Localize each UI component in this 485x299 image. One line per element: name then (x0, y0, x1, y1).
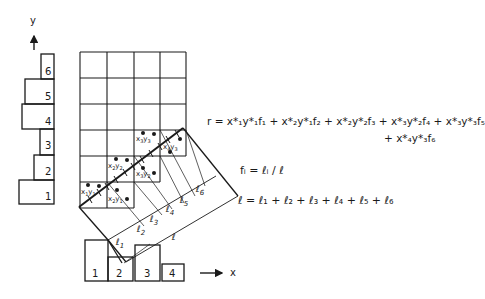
segment-label-l4: ℓ4 (165, 204, 174, 217)
x-bin-label-2: 2 (116, 268, 122, 279)
equation-r-line1: r = x*₁y*₁f₁ + x*₂y*₁f₂ + x*₂y*₂f₃ + x*₃… (207, 115, 485, 127)
total-length-label: ℓ (171, 232, 176, 242)
x-bin-label-3: 3 (144, 268, 150, 279)
equation-fi: fᵢ = ℓᵢ / ℓ (240, 164, 284, 177)
equation-r-line2: + x*₄y*₃f₆ (384, 132, 435, 144)
y-bin-label-2: 2 (45, 166, 51, 177)
cell-label-x3y3: x3y3 (136, 135, 151, 144)
segment-label-l5: ℓ5 (179, 195, 189, 208)
y-bin-label-1: 1 (45, 191, 51, 202)
x-bin-label-4: 4 (169, 268, 175, 279)
y-bin-label-4: 4 (45, 116, 51, 127)
cell-label-x4y3: x4y3 (163, 143, 178, 152)
segment-label-l3: ℓ3 (149, 214, 158, 227)
y-axis: y (30, 15, 36, 50)
projection-ray (79, 128, 183, 207)
y-bin-label-3: 3 (45, 140, 51, 151)
x-axis-label: x (230, 267, 236, 278)
x-axis: x (200, 267, 236, 278)
y-bin-label-6: 6 (45, 66, 51, 77)
cell-label-x2y2: x2y2 (108, 162, 123, 171)
segment-label-l2: ℓ2 (136, 224, 146, 237)
y-axis-label: y (30, 15, 36, 26)
pixel-grid (80, 52, 186, 208)
segment-label-l1: ℓ1 (115, 237, 124, 250)
x-bin-label-1: 1 (92, 268, 98, 279)
cell-label-x3y2: x3y2 (136, 170, 151, 179)
cell-label-x2y1: x2y1 (108, 195, 123, 204)
equation-l-sum: ℓ = ℓ₁ + ℓ₂ + ℓ₃ + ℓ₄ + ℓ₅ + ℓ₆ (238, 194, 394, 207)
length-measurement-frame (79, 128, 238, 263)
y-bin-label-5: 5 (45, 91, 51, 102)
